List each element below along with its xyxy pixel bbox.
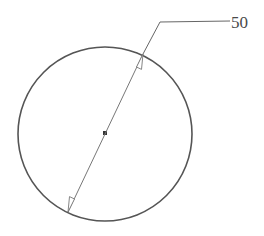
arrowhead-lower xyxy=(68,197,75,212)
leader-line xyxy=(143,21,230,54)
dimension-line xyxy=(68,54,143,212)
arrowhead-upper xyxy=(137,54,144,69)
dimension-label: 50 xyxy=(231,13,248,32)
diameter-diagram: 50 xyxy=(0,0,264,236)
